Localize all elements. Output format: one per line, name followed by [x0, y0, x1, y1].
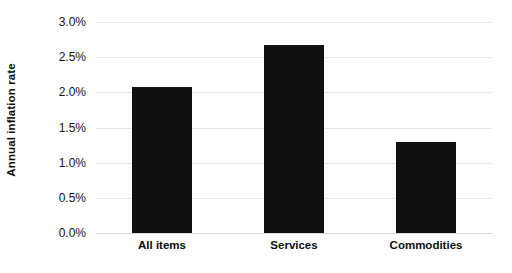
x-axis-tick-labels: All itemsServicesCommodities — [96, 239, 492, 263]
bar-group[interactable] — [132, 22, 192, 233]
plot-area — [96, 22, 492, 233]
y-tick-label: 1.0% — [59, 156, 86, 170]
bar-chart-figure: Annual inflation rate 0.0%0.5%1.0%1.5%2.… — [0, 0, 512, 273]
y-tick-label: 2.5% — [59, 50, 86, 64]
x-tick-label: Commodities — [390, 239, 463, 251]
x-tick-label: Services — [270, 239, 317, 251]
y-tick-label: 0.0% — [59, 226, 86, 240]
y-axis-tick-labels: 0.0%0.5%1.0%1.5%2.0%2.5%3.0% — [26, 0, 92, 240]
bar[interactable] — [132, 87, 192, 233]
bar-group[interactable] — [396, 22, 456, 233]
gridline-0.0% — [96, 233, 492, 234]
x-tick-label: All items — [138, 239, 186, 251]
y-axis-title-label: Annual inflation rate — [5, 63, 17, 176]
y-axis-title: Annual inflation rate — [0, 0, 22, 240]
bar[interactable] — [396, 142, 456, 233]
bar[interactable] — [264, 45, 324, 233]
y-tick-label: 2.0% — [59, 85, 86, 99]
y-tick-label: 1.5% — [59, 121, 86, 135]
bars-layer — [96, 22, 492, 233]
y-tick-label: 3.0% — [59, 15, 86, 29]
bar-group[interactable] — [264, 22, 324, 233]
y-tick-label: 0.5% — [59, 191, 86, 205]
